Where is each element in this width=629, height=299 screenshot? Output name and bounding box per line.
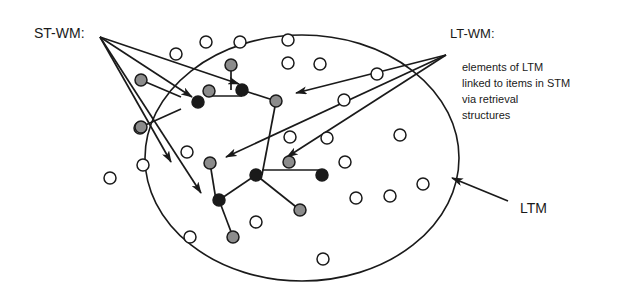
lt-wm-node-gray (203, 85, 215, 97)
ltm-node-open (170, 48, 182, 60)
st-wm-node-dark (213, 194, 225, 206)
lt-wm-gray-nodes (135, 59, 306, 243)
ltm-node-open (350, 192, 362, 204)
st-wm-arrow (100, 37, 192, 97)
ltm-node-open (371, 68, 383, 80)
link-line (256, 175, 300, 210)
st-wm-node-dark (236, 84, 248, 96)
ltm-node-open (284, 131, 296, 143)
pointer-arrows (100, 37, 508, 201)
ltm-node-open (339, 156, 351, 168)
lt-wm-description: elements of LTM linked to items in STM v… (462, 59, 612, 123)
lt-wm-node-gray (225, 59, 237, 71)
st-wm-arrow (100, 37, 171, 162)
ltm-node-open (384, 190, 396, 202)
ltm-node-open (321, 132, 333, 144)
lt-wm-node-gray (227, 231, 239, 243)
ltm-node-open (282, 34, 294, 46)
ltm-node-open (394, 129, 406, 141)
ltm-node-open (200, 36, 212, 48)
ltm-node-open (137, 159, 149, 171)
ltm-node-open (104, 172, 116, 184)
st-wm-dark-nodes (192, 84, 328, 206)
ltm-node-open (338, 94, 350, 106)
ltm-arrow (452, 178, 508, 201)
ltm-node-open (181, 146, 193, 158)
st-wm-label: ST-WM: (34, 25, 85, 41)
ltm-diagram (0, 0, 629, 299)
st-wm-node-dark (192, 96, 204, 108)
lt-wm-arrow (226, 55, 446, 157)
lt-wm-node-gray (135, 74, 147, 86)
lt-wm-description-line: via retrieval (462, 91, 612, 107)
st-wm-arrow (100, 37, 201, 193)
ltm-node-open (234, 36, 246, 48)
ltm-node-open (282, 57, 294, 69)
lt-wm-node-gray (294, 204, 306, 216)
st-wm-arrow (100, 37, 239, 84)
lt-wm-node-gray (283, 156, 295, 168)
ltm-ellipse (145, 35, 459, 281)
st-wm-node-dark (316, 169, 328, 181)
ltm-node-open (314, 58, 326, 70)
st-wm-node-dark (250, 169, 262, 181)
lt-wm-node-gray (135, 121, 147, 133)
ltm-node-open (184, 231, 196, 243)
ltm-node-open (250, 216, 262, 228)
ltm-node-open (417, 178, 429, 190)
lt-wm-description-line: elements of LTM (462, 59, 612, 75)
lt-wm-description-line: linked to items in STM (462, 75, 612, 91)
lt-wm-label: LT-WM: (450, 26, 495, 41)
ltm-label: LTM (520, 200, 547, 216)
lt-wm-description-line: structures (462, 107, 612, 123)
lt-wm-arrow (287, 55, 446, 157)
ltm-node-open (317, 253, 329, 265)
lt-wm-node-gray (270, 95, 282, 107)
lt-wm-node-gray (204, 157, 216, 169)
